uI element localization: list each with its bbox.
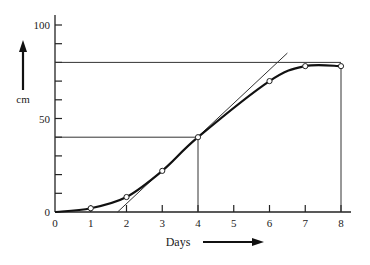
data-point-marker [160,168,165,173]
x-axis-label: Days [166,235,191,249]
x-tick-label: 0 [52,217,58,229]
x-tick-label: 7 [303,217,309,229]
y-tick-label: 0 [45,206,51,218]
data-point-marker [195,135,200,140]
data-point-marker [303,64,308,69]
x-tick-label: 3 [160,217,166,229]
data-point-marker [267,79,272,84]
x-tick-label: 8 [338,217,344,229]
data-point-marker [88,206,93,211]
data-point-marker [338,64,343,69]
x-tick-label: 1 [88,217,94,229]
up-arrow-icon [19,40,27,52]
growth-chart: 050100012345678cmDays [0,0,370,265]
x-tick-label: 4 [195,217,201,229]
y-axis-label: cm [16,93,30,105]
x-tick-label: 2 [124,217,130,229]
data-point-marker [124,194,129,199]
right-arrow-icon [252,238,264,246]
x-tick-label: 5 [231,217,237,229]
chart-canvas: 050100012345678cmDays [0,0,370,265]
x-tick-label: 6 [267,217,273,229]
y-tick-label: 100 [34,19,51,31]
y-tick-label: 50 [39,113,51,125]
